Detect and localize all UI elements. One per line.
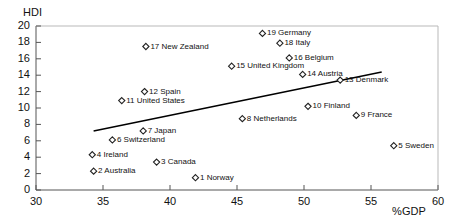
point-label-2: 2 Australia <box>98 166 135 175</box>
marker-11 <box>119 98 125 104</box>
point-label-7: 7 Japan <box>148 126 176 135</box>
x-tick-label-40: 40 <box>158 195 182 207</box>
y-tick-label-0: 0 <box>12 183 30 195</box>
marker-6 <box>109 137 115 143</box>
marker-8 <box>239 116 245 122</box>
point-label-13: 13 Denmark <box>345 75 389 84</box>
marker-19 <box>259 30 265 36</box>
point-label-6: 6 Switzerland <box>117 135 165 144</box>
point-label-11: 11 United States <box>126 96 185 105</box>
marker-14 <box>300 71 306 77</box>
x-tick-label-35: 35 <box>91 195 115 207</box>
point-label-5: 5 Sweden <box>398 141 434 150</box>
point-label-1: 1 Norway <box>200 173 234 182</box>
x-tick-label-30: 30 <box>24 195 48 207</box>
y-tick-label-12: 12 <box>12 85 30 97</box>
y-tick-label-18: 18 <box>12 35 30 47</box>
marker-18 <box>277 40 283 46</box>
plot-frame <box>36 26 438 190</box>
y-tick-label-8: 8 <box>12 117 30 129</box>
marker-7 <box>140 128 146 134</box>
point-label-16: 16 Belgium <box>294 53 334 62</box>
marker-4 <box>89 152 95 158</box>
point-label-12: 12 Spain <box>149 87 181 96</box>
x-tick-label-60: 60 <box>426 195 450 207</box>
y-tick-label-10: 10 <box>12 101 30 113</box>
point-label-15: 15 United Kingdom <box>236 61 304 70</box>
y-tick-label-4: 4 <box>12 150 30 162</box>
point-label-9: 9 France <box>361 110 393 119</box>
marker-2 <box>91 168 97 174</box>
marker-15 <box>229 63 235 69</box>
scatter-chart: HDI %GDP 02468101214161820 3035404550556… <box>0 0 460 224</box>
x-tick-label-55: 55 <box>359 195 383 207</box>
x-tick-label-45: 45 <box>225 195 249 207</box>
marker-3 <box>154 159 160 165</box>
point-label-8: 8 Netherlands <box>247 114 297 123</box>
point-label-10: 10 Finland <box>313 101 350 110</box>
marker-16 <box>286 55 292 61</box>
marker-5 <box>391 143 397 149</box>
y-tick-label-14: 14 <box>12 68 30 80</box>
marker-10 <box>305 103 311 109</box>
point-label-19: 19 Germany <box>267 28 311 37</box>
y-tick-label-20: 20 <box>12 19 30 31</box>
marker-9 <box>353 112 359 118</box>
point-label-4: 4 Ireland <box>97 150 128 159</box>
point-label-14: 14 Austria <box>307 69 343 78</box>
data-markers <box>89 30 397 181</box>
y-tick-label-6: 6 <box>12 134 30 146</box>
axis-ticks <box>36 26 438 190</box>
point-label-17: 17 New Zealand <box>150 42 208 51</box>
marker-12 <box>141 89 147 95</box>
point-label-18: 18 Italy <box>284 38 310 47</box>
point-label-3: 3 Canada <box>161 157 196 166</box>
y-tick-label-16: 16 <box>12 52 30 64</box>
x-tick-label-50: 50 <box>292 195 316 207</box>
y-tick-label-2: 2 <box>12 167 30 179</box>
marker-17 <box>143 43 149 49</box>
marker-1 <box>192 175 198 181</box>
